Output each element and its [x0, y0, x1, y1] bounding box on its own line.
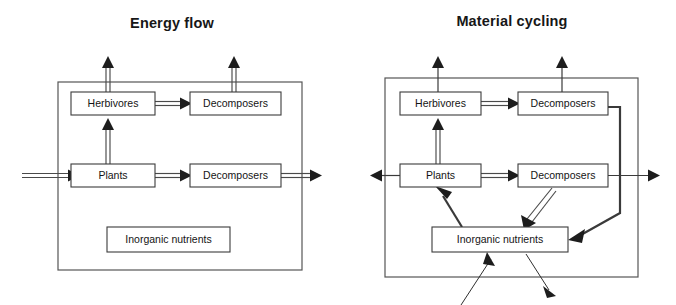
- box-label: Inorganic nutrients: [125, 233, 211, 245]
- flow-external-below-to-inorganic-nutrients: [461, 252, 495, 305]
- box-decomposers-top-material[interactable]: Decomposers: [518, 92, 608, 115]
- box-plants-energy[interactable]: Plants: [71, 164, 155, 187]
- flow-decomposers-top-to-outside-top: [228, 56, 240, 92]
- box-label: Plants: [98, 169, 127, 181]
- box-label: Herbivores: [88, 97, 139, 109]
- ecosystem-diagram-svg: Herbivores Decomposers Plants Decomposer…: [0, 0, 676, 305]
- flow-plants-to-herbivores: [102, 118, 114, 164]
- flow-decomposers-top-to-outside-top-mc: [556, 56, 568, 92]
- box-inorganic-nutrients-energy[interactable]: Inorganic nutrients: [107, 227, 230, 252]
- flow-inorganic-nutrients-to-plants: [435, 186, 462, 227]
- flow-decomposers-bottom-to-inorganic-nutrients: [521, 188, 556, 230]
- flow-herbivores-to-decomposers-top-mc: [481, 98, 520, 110]
- panel-material-cycling: Herbivores Decomposers Plants Decomposer…: [370, 56, 660, 305]
- box-decomposers-bottom-energy[interactable]: Decomposers: [190, 164, 281, 187]
- flow-herbivores-to-outside-top-mc: [432, 56, 444, 92]
- box-herbivores-energy[interactable]: Herbivores: [71, 92, 155, 115]
- box-label: Decomposers: [203, 169, 268, 181]
- box-label: Decomposers: [531, 97, 596, 109]
- flow-decomposers-bottom-to-outside-right-mc: [608, 170, 660, 182]
- flow-plants-to-decomposers-bottom-mc: [481, 170, 520, 182]
- box-label: Herbivores: [415, 97, 466, 109]
- box-plants-material[interactable]: Plants: [400, 164, 481, 187]
- flow-plants-to-decomposers-bottom: [155, 170, 192, 182]
- flow-herbivores-to-decomposers-top: [155, 98, 192, 110]
- diagram-stage: Energy flow Material cycling: [0, 0, 676, 305]
- box-label: Plants: [426, 169, 455, 181]
- box-decomposers-top-energy[interactable]: Decomposers: [190, 92, 281, 115]
- flow-herbivores-to-outside-top: [102, 56, 114, 92]
- box-label: Decomposers: [531, 169, 596, 181]
- flow-plants-to-herbivores-mc: [432, 118, 444, 164]
- box-label: Decomposers: [203, 97, 268, 109]
- flow-inorganic-nutrients-to-external-below: [526, 254, 556, 298]
- box-herbivores-material[interactable]: Herbivores: [400, 92, 481, 115]
- box-label: Inorganic nutrients: [457, 233, 543, 245]
- box-inorganic-nutrients-material[interactable]: Inorganic nutrients: [432, 227, 568, 252]
- box-decomposers-bottom-material[interactable]: Decomposers: [518, 164, 608, 187]
- panel-energy-flow: Herbivores Decomposers Plants Decomposer…: [22, 56, 322, 270]
